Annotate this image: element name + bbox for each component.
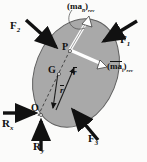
label-f2-subscript: 2 <box>17 26 20 33</box>
label-point-p: P <box>62 42 68 52</box>
label-force-f3: F3 <box>88 133 98 147</box>
label-f2-symbol: F <box>10 19 17 31</box>
label-point-o: O <box>31 103 39 113</box>
label-mat-symbol: ma <box>110 62 122 71</box>
label-ry-symbol: R <box>33 140 41 152</box>
label-mat-rev: rev <box>127 68 133 73</box>
label-f3-symbol: F <box>88 132 95 144</box>
label-f3-subscript: 3 <box>95 139 98 146</box>
label-vector-r: r <box>73 68 77 77</box>
label-rx-subscript: x <box>10 124 13 131</box>
diagram-canvas <box>0 0 147 162</box>
label-r-symbol: r <box>73 68 77 77</box>
label-f1-subscript: 1 <box>127 40 130 47</box>
label-rx-symbol: R <box>2 117 10 129</box>
label-rbar-symbol: r <box>60 86 64 95</box>
force-arrow-f2 <box>26 20 56 47</box>
label-inertia-man: (man)rev <box>67 2 94 14</box>
free-body-diagram: (man)rev (mat)rev F1 F2 F3 Rx Ry P G O r… <box>0 0 147 162</box>
label-man-symbol: ma <box>70 1 82 11</box>
label-force-f1: F1 <box>120 34 130 48</box>
label-ry-subscript: y <box>41 147 44 154</box>
label-man-rev: rev <box>88 8 94 13</box>
label-inertia-mat: (mat)rev <box>107 62 133 74</box>
label-point-g: G <box>48 65 56 75</box>
label-reaction-rx: Rx <box>2 118 13 132</box>
label-f1-symbol: F <box>120 33 127 45</box>
label-force-f2: F2 <box>10 20 20 34</box>
label-vector-r-bar: r <box>60 86 64 95</box>
label-reaction-ry: Ry <box>33 141 44 155</box>
